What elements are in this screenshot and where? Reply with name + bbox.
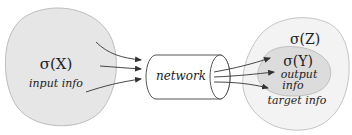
input-label: input info	[29, 77, 83, 90]
diagram-canvas: σ(X) input info network σ(Z) target info…	[0, 0, 352, 135]
output-info-region: σ(Y) output info	[258, 47, 331, 96]
output-symbol: σ(Y)	[283, 53, 313, 69]
input-symbol: σ(X)	[40, 55, 73, 73]
target-symbol: σ(Z)	[290, 31, 320, 47]
input-info-region: σ(X) input info	[5, 8, 116, 126]
network-label: network	[156, 69, 206, 83]
output-label-line2: info	[282, 79, 304, 92]
